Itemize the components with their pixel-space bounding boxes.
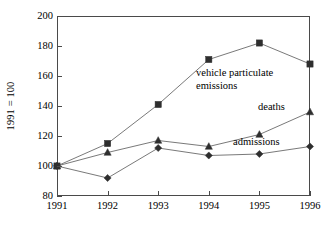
y-axis-tick-label: 100: [23, 161, 53, 171]
annotation-vehicle-particulate-emissions: vehicle particulate emissions: [196, 67, 273, 92]
data-point-marker: [256, 40, 262, 46]
data-point-marker: [155, 101, 161, 107]
data-point-marker: [306, 108, 313, 115]
chart-container: 1991 = 100 80100120140160180200 19911992…: [0, 0, 325, 229]
x-axis-tick-label: 1994: [187, 199, 231, 212]
x-axis-tick-mark: [310, 191, 311, 196]
y-axis-tick-mark: [57, 46, 62, 47]
x-axis-tick-mark: [158, 191, 159, 196]
y-axis-tick-labels: 80100120140160180200: [20, 0, 53, 229]
x-axis-tick-label: 1995: [237, 199, 281, 212]
annotation-deaths: deaths: [258, 101, 285, 114]
data-point-marker: [205, 152, 212, 159]
y-axis-tick-label: 140: [23, 101, 53, 111]
y-axis-tick-label: 160: [23, 71, 53, 81]
y-axis-tick-label: 120: [23, 131, 53, 141]
y-axis-tick-mark: [57, 166, 62, 167]
x-axis-tick-labels: 199119921993199419951996: [0, 199, 325, 215]
data-point-marker: [105, 140, 111, 146]
y-axis-title: 1991 = 100: [4, 16, 18, 196]
x-axis-tick-label: 1996: [288, 199, 325, 212]
data-point-marker: [155, 144, 162, 151]
annotation-admissions: admissions: [233, 136, 280, 149]
x-axis-tick-label: 1991: [35, 199, 79, 212]
y-axis-tick-mark: [57, 196, 62, 197]
y-axis-tick-label: 180: [23, 41, 53, 51]
y-axis-tick-mark: [57, 106, 62, 107]
data-point-marker: [155, 137, 162, 144]
y-axis-tick-label: 200: [23, 11, 53, 21]
y-axis-tick-mark: [57, 16, 62, 17]
data-point-marker: [256, 150, 263, 157]
x-axis-tick-label: 1993: [136, 199, 180, 212]
y-axis-tick-mark: [57, 76, 62, 77]
x-axis-tick-mark: [57, 191, 58, 196]
x-axis-tick-mark: [259, 191, 260, 196]
data-point-marker: [306, 143, 313, 150]
data-point-marker: [307, 61, 313, 67]
x-axis-tick-label: 1992: [86, 199, 130, 212]
data-point-marker: [104, 174, 111, 181]
data-point-marker: [206, 56, 212, 62]
series-admissions: [53, 143, 313, 182]
y-axis-tick-mark: [57, 136, 62, 137]
series-line: [57, 147, 310, 179]
x-axis-tick-mark: [108, 191, 109, 196]
x-axis-tick-mark: [209, 191, 210, 196]
